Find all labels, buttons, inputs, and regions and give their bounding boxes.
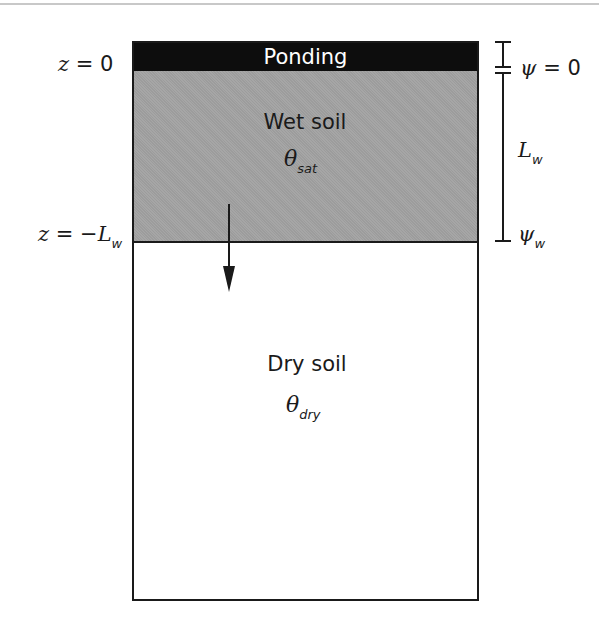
wetting-front-depth-label: z = −Lw	[38, 222, 122, 251]
theta-sat-symbol: θsat	[284, 146, 317, 176]
dry-soil-label: Dry soil	[252, 352, 362, 376]
top-border-line	[0, 3, 599, 5]
psi-zero-label: ψ = 0	[520, 56, 581, 80]
ponding-bottom-tick	[495, 66, 511, 68]
ponding-label: Ponding	[264, 45, 348, 69]
wet-length-label: Lw	[518, 138, 543, 167]
ponding-depth-line	[502, 41, 504, 67]
wet-soil-label: Wet soil	[250, 110, 360, 134]
arrow-down-icon	[223, 266, 235, 292]
surface-depth-label: z = 0	[58, 52, 113, 76]
wet-length-line	[502, 72, 504, 240]
wet-bottom-tick	[495, 240, 511, 242]
ponding-layer: Ponding	[134, 43, 477, 71]
psi-w-label: ψw	[518, 222, 545, 251]
theta-dry-symbol: θdry	[286, 392, 321, 422]
wetting-front-arrow-shaft	[228, 204, 230, 270]
